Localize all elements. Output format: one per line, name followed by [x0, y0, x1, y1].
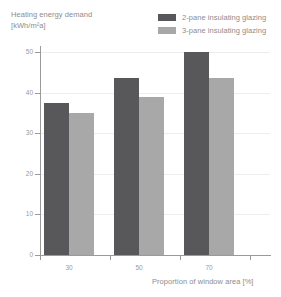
- chart-title: Heating energy demand [kWh/m²a]: [11, 10, 92, 31]
- legend-item: 3-pane insulating glazing: [158, 25, 266, 36]
- x-axis-tick: [180, 255, 181, 260]
- x-axis-tick-label: 70: [189, 265, 229, 272]
- y-axis-tick-label: 50: [5, 49, 33, 56]
- legend-swatch-3-pane: [158, 27, 176, 34]
- x-axis-tick: [110, 255, 111, 260]
- x-axis-tick: [250, 255, 251, 260]
- x-axis-title: Proportion of window area [%]: [152, 277, 254, 286]
- bar: [184, 52, 209, 255]
- y-axis-tick-label: 0: [5, 252, 33, 259]
- legend-label-3-pane: 3-pane insulating glazing: [182, 26, 266, 35]
- chart-title-text: Heating energy demand: [11, 10, 92, 19]
- x-axis-tick-label: 30: [49, 265, 89, 272]
- legend-item: 2-pane insulating glazing: [158, 12, 266, 23]
- chart-legend: 2-pane insulating glazing 3-pane insulat…: [158, 12, 266, 38]
- legend-label-2-pane: 2-pane insulating glazing: [182, 13, 266, 22]
- bar: [209, 78, 234, 255]
- bar: [44, 103, 69, 255]
- plot-area: [40, 52, 270, 255]
- legend-swatch-2-pane: [158, 14, 176, 21]
- y-axis-tick-label: 40: [5, 90, 33, 97]
- y-axis-tick-label: 20: [5, 171, 33, 178]
- bar-chart: Heating energy demand [kWh/m²a] 2-pane i…: [0, 0, 281, 297]
- bar: [114, 78, 139, 255]
- x-axis-tick: [40, 255, 41, 260]
- x-axis-tick-label: 50: [119, 265, 159, 272]
- bar: [69, 113, 94, 255]
- y-axis-tick-label: 30: [5, 130, 33, 137]
- bar: [139, 97, 164, 255]
- chart-title-unit: [kWh/m²a]: [11, 21, 92, 32]
- x-axis-line: [40, 255, 271, 256]
- y-axis-tick-label: 10: [5, 211, 33, 218]
